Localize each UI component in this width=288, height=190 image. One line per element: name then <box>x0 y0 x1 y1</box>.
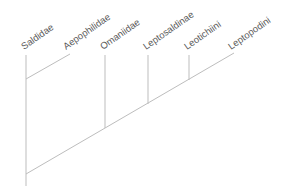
branch-aepophilidae <box>26 54 70 79</box>
taxon-label-saldidae: Saldidae <box>19 21 56 51</box>
taxon-label-leptopodini: Leptopodini <box>226 14 273 51</box>
cladogram: Saldidae Aepophilidae Omaniidae Leptosal… <box>0 0 288 190</box>
branch-backbone-leptopodini <box>26 53 234 174</box>
taxon-label-leotichiini: Leotichiini <box>182 18 223 51</box>
